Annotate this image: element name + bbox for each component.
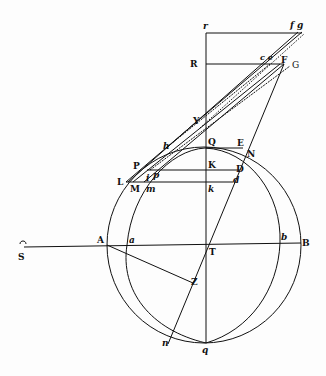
label-A: A xyxy=(97,236,104,245)
label-G: G xyxy=(292,61,299,70)
label-B: B xyxy=(302,239,310,248)
label-k: k xyxy=(208,185,214,194)
label-b: b xyxy=(281,233,287,242)
label-p: p xyxy=(153,171,159,180)
label-a: a xyxy=(129,236,135,245)
label-P: P xyxy=(133,162,140,171)
label-N: N xyxy=(247,150,255,159)
diagram-canvas: r f g R c e F G Y h Q E N P K D i p L M … xyxy=(0,0,326,376)
S-mark xyxy=(20,241,26,244)
line-A-Z xyxy=(107,245,193,283)
label-D: D xyxy=(236,165,244,174)
geometry-drawing xyxy=(0,0,326,376)
label-R: R xyxy=(190,60,197,69)
label-n: n xyxy=(162,339,169,348)
label-fg: f g xyxy=(290,21,303,30)
label-T: T xyxy=(209,248,216,257)
label-L: L xyxy=(117,178,123,187)
label-r: r xyxy=(203,22,208,31)
line-p-G xyxy=(150,66,290,170)
line-F-n xyxy=(168,64,284,344)
label-m: m xyxy=(146,185,156,194)
label-Q: Q xyxy=(208,138,216,147)
label-S: S xyxy=(18,253,25,262)
label-d: d xyxy=(233,176,239,185)
label-h: h xyxy=(163,142,170,151)
label-K: K xyxy=(208,161,216,170)
label-M: M xyxy=(130,185,140,194)
label-E: E xyxy=(237,139,244,148)
label-F: F xyxy=(281,56,287,65)
label-Y: Y xyxy=(193,117,199,126)
label-q: q xyxy=(202,346,208,355)
label-i: i xyxy=(146,174,149,183)
label-Z: Z xyxy=(191,278,198,287)
horizontal-axis xyxy=(24,243,301,247)
label-ce: c e xyxy=(260,53,273,61)
line-Y-g xyxy=(200,34,304,128)
